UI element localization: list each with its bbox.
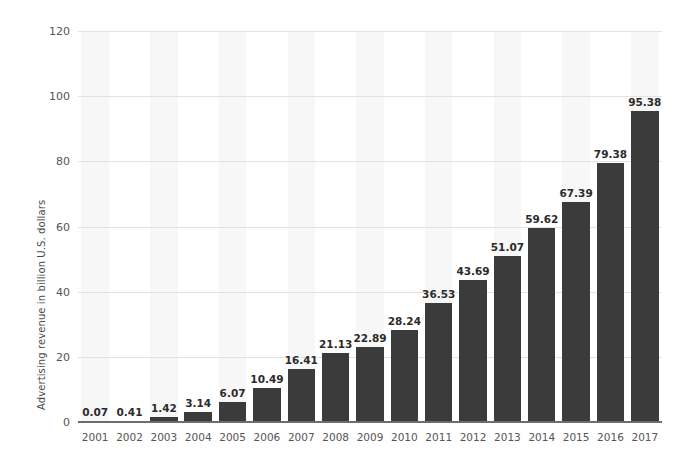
x-axis-tick-label: 2015 bbox=[563, 431, 590, 443]
bar-value-label: 10.49 bbox=[250, 373, 283, 385]
y-axis-tick-label: 20 bbox=[24, 351, 70, 364]
x-axis-tick-label: 2011 bbox=[425, 431, 452, 443]
bar bbox=[425, 303, 452, 422]
x-axis-tick-label: 2001 bbox=[82, 431, 109, 443]
x-axis-line bbox=[78, 421, 662, 423]
plot-area bbox=[78, 31, 662, 422]
bar bbox=[631, 111, 658, 422]
y-axis-tick-label: 0 bbox=[24, 416, 70, 429]
x-axis-tick-label: 2012 bbox=[460, 431, 487, 443]
y-axis-tick-label: 60 bbox=[24, 221, 70, 234]
gridline bbox=[78, 161, 662, 162]
y-axis-tick-label: 100 bbox=[24, 90, 70, 103]
bar-value-label: 59.62 bbox=[525, 213, 558, 225]
bar bbox=[288, 369, 315, 422]
x-axis-tick-label: 2014 bbox=[528, 431, 555, 443]
bar-value-label: 1.42 bbox=[151, 402, 177, 414]
bar bbox=[597, 163, 624, 422]
bar-value-label: 22.89 bbox=[353, 332, 386, 344]
bar-value-label: 0.41 bbox=[117, 406, 143, 418]
bar bbox=[528, 228, 555, 422]
bar-value-label: 16.41 bbox=[285, 354, 318, 366]
bar-value-label: 0.07 bbox=[82, 406, 108, 418]
bar-value-label: 21.13 bbox=[319, 338, 352, 350]
x-axis-tick-label: 2010 bbox=[391, 431, 418, 443]
bar-value-label: 51.07 bbox=[491, 241, 524, 253]
bar bbox=[253, 388, 280, 422]
bar-value-label: 28.24 bbox=[388, 315, 421, 327]
bar bbox=[219, 402, 246, 422]
bar-value-label: 43.69 bbox=[456, 265, 489, 277]
x-axis-tick-label: 2016 bbox=[597, 431, 624, 443]
gridline bbox=[78, 96, 662, 97]
y-axis-tick-label: 80 bbox=[24, 155, 70, 168]
bar-value-label: 95.38 bbox=[628, 96, 661, 108]
y-axis-tick-labels: 020406080100120 bbox=[8, 31, 70, 422]
bar-value-label: 79.38 bbox=[594, 148, 627, 160]
x-axis-tick-label: 2006 bbox=[254, 431, 281, 443]
x-axis-tick-label: 2009 bbox=[357, 431, 384, 443]
bar-value-label: 67.39 bbox=[560, 187, 593, 199]
bar-value-label: 3.14 bbox=[185, 397, 211, 409]
x-axis-tick-label: 2005 bbox=[219, 431, 246, 443]
x-axis-tick-label: 2004 bbox=[185, 431, 212, 443]
bar bbox=[562, 202, 589, 422]
x-axis-tick-label: 2013 bbox=[494, 431, 521, 443]
x-axis-tick-label: 2003 bbox=[151, 431, 178, 443]
gridline bbox=[78, 31, 662, 32]
bar bbox=[322, 353, 349, 422]
y-axis-tick-label: 120 bbox=[24, 25, 70, 38]
bar-value-label: 6.07 bbox=[220, 387, 246, 399]
x-axis-tick-label: 2002 bbox=[116, 431, 143, 443]
x-axis-tick-label: 2008 bbox=[322, 431, 349, 443]
bar bbox=[494, 256, 521, 422]
bar bbox=[459, 280, 486, 422]
y-axis-tick-label: 40 bbox=[24, 286, 70, 299]
bar-value-label: 36.53 bbox=[422, 288, 455, 300]
bar-chart: Advertising revenue in billion U.S. doll… bbox=[0, 0, 684, 469]
bar bbox=[391, 330, 418, 422]
bar bbox=[356, 347, 383, 422]
x-axis-tick-label: 2007 bbox=[288, 431, 315, 443]
x-axis-tick-label: 2017 bbox=[631, 431, 658, 443]
